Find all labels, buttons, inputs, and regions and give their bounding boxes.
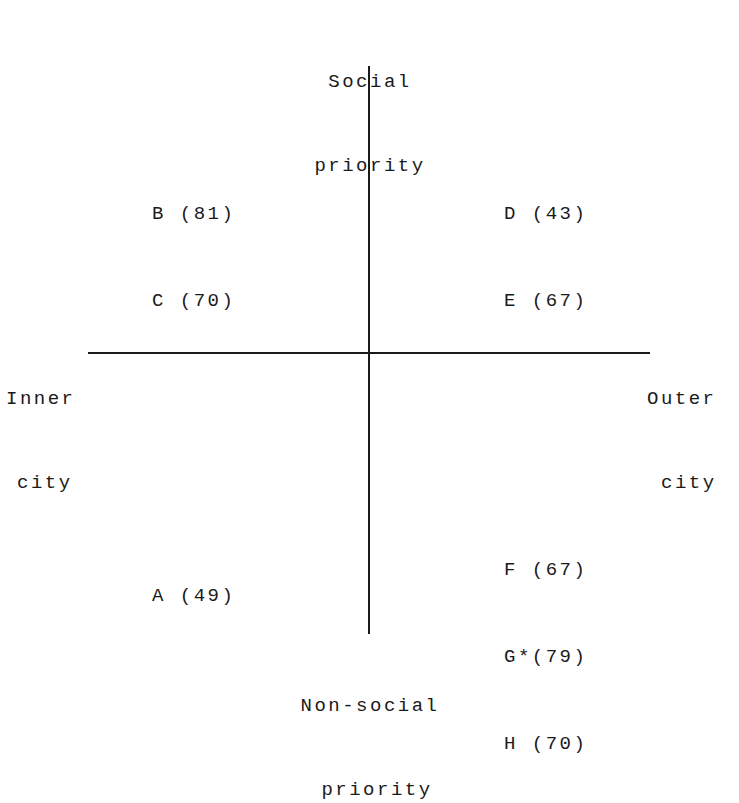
axis-label-bottom-line1: Non-social	[275, 692, 465, 720]
quadrant-top-left: B (81) C (70)	[152, 142, 235, 374]
axis-label-left-line2: city	[6, 469, 76, 497]
quadrant-bottom-left: A (49)	[152, 524, 235, 669]
list-item: B (81)	[152, 200, 235, 229]
quadrant-top-right: D (43) E (67)	[504, 142, 587, 374]
axis-label-left-line1: Inner	[6, 385, 76, 413]
axis-label-right: Outer city	[647, 329, 717, 553]
list-item: F (67)	[504, 556, 587, 585]
axis-label-top-line1: Social	[300, 68, 440, 96]
axis-label-bottom-line2: priority	[275, 776, 465, 803]
axis-label-top-line2: priority	[300, 152, 440, 180]
list-item: H (70)	[504, 730, 587, 759]
axis-label-top: Social priority	[300, 12, 440, 236]
list-item: D (43)	[504, 200, 587, 229]
list-item: A (49)	[152, 582, 235, 611]
axis-label-left: Inner city	[6, 329, 76, 553]
axis-label-right-line1: Outer	[647, 385, 717, 413]
list-item: E (67)	[504, 287, 587, 316]
axis-label-bottom: Non-social priority	[275, 636, 465, 803]
quadrant-bottom-right: F (67) G*(79) H (70)	[504, 498, 587, 803]
list-item: G*(79)	[504, 643, 587, 672]
list-item: C (70)	[152, 287, 235, 316]
axis-label-right-line2: city	[647, 469, 717, 497]
